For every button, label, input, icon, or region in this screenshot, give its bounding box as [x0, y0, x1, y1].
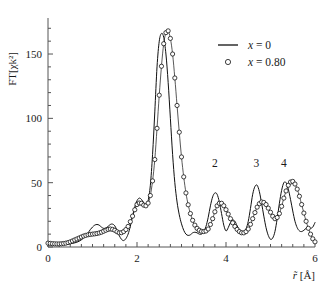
y-axis-title: FT[χk²] — [6, 52, 18, 86]
data-point-marker — [126, 224, 130, 228]
data-point-marker — [150, 179, 154, 183]
data-point-marker — [293, 182, 297, 186]
data-point-marker — [297, 194, 301, 198]
data-point-marker — [157, 93, 161, 97]
data-point-marker — [308, 232, 312, 236]
data-point-marker — [226, 212, 230, 216]
data-point-marker — [213, 210, 217, 214]
peak-label-3: 3 — [253, 157, 259, 169]
data-point-marker — [275, 215, 279, 219]
peak-label-4: 4 — [281, 157, 287, 169]
data-point-marker — [171, 52, 175, 56]
data-point-marker — [166, 29, 170, 33]
data-point-marker — [130, 214, 134, 218]
data-point-marker — [246, 227, 250, 231]
data-point-marker — [300, 202, 304, 206]
data-point-marker — [313, 240, 317, 244]
data-point-marker — [211, 217, 215, 221]
data-point-marker — [222, 204, 226, 208]
data-point-marker — [179, 155, 183, 159]
data-point-marker — [175, 103, 179, 107]
y-tick-label: 50 — [31, 177, 43, 189]
data-point-marker — [284, 189, 288, 193]
data-point-marker — [162, 42, 166, 46]
y-tick-label: 0 — [37, 241, 43, 253]
data-point-marker — [248, 222, 252, 226]
data-point-marker — [306, 226, 310, 230]
data-point-marker — [280, 204, 284, 208]
data-point-marker — [182, 175, 186, 179]
data-point-marker — [228, 217, 232, 221]
data-point-marker — [133, 208, 137, 212]
data-point-marker — [253, 210, 257, 214]
x-tick-label: 4 — [223, 252, 229, 264]
data-point-marker — [208, 222, 212, 226]
x-axis-title: r̃ [Å] — [293, 269, 315, 281]
data-point-marker — [128, 220, 132, 224]
legend-circle-swatch — [225, 59, 230, 64]
data-point-marker — [304, 219, 308, 223]
legend-group: x = 0x = 0.80 — [218, 39, 286, 68]
data-point-marker — [277, 211, 281, 215]
legend-label-x080: x = 0.80 — [247, 56, 286, 68]
data-point-marker — [177, 130, 181, 134]
peak-label-2: 2 — [212, 157, 218, 169]
x-tick-label: 6 — [312, 252, 318, 264]
data-point-marker — [173, 76, 177, 80]
plot-canvas: 0501001500246 234 x = 0x = 0.80 FT[χk²]r… — [0, 0, 333, 289]
data-point-marker — [153, 157, 157, 161]
x-tick-label: 0 — [45, 252, 51, 264]
data-point-marker — [268, 210, 272, 214]
data-point-marker — [188, 211, 192, 215]
data-point-marker — [184, 191, 188, 195]
data-point-marker — [224, 208, 228, 212]
data-point-marker — [251, 217, 255, 221]
data-point-marker — [206, 227, 210, 231]
data-point-marker — [159, 64, 163, 68]
y-tick-label: 150 — [26, 48, 43, 60]
data-point-marker — [146, 201, 150, 205]
data-point-marker — [302, 211, 306, 215]
data-point-marker — [191, 218, 195, 222]
data-point-marker — [168, 36, 172, 40]
data-point-marker — [282, 196, 286, 200]
data-point-marker — [295, 187, 299, 191]
x-tick-label: 2 — [134, 252, 140, 264]
data-point-marker — [155, 126, 159, 130]
data-point-marker — [148, 193, 152, 197]
data-point-marker — [186, 203, 190, 207]
data-point-marker — [266, 206, 270, 210]
y-tick-label: 100 — [26, 112, 43, 124]
exafs-fourier-transform-chart: 0501001500246 234 x = 0x = 0.80 FT[χk²]r… — [0, 0, 333, 289]
legend-label-x0: x = 0 — [247, 39, 271, 51]
peak-annotations-group: 234 — [212, 157, 287, 169]
